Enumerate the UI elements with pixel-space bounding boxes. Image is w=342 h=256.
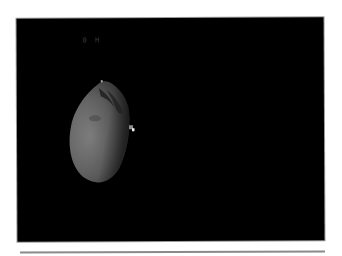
image-frame: 0 H bbox=[17, 17, 325, 241]
companion-highlight bbox=[132, 128, 135, 131]
surface-crater bbox=[89, 115, 101, 121]
bottom-rule bbox=[20, 250, 325, 253]
scene bbox=[17, 17, 325, 241]
body-terminator-shade bbox=[69, 81, 129, 182]
rim-highlight bbox=[101, 80, 103, 82]
